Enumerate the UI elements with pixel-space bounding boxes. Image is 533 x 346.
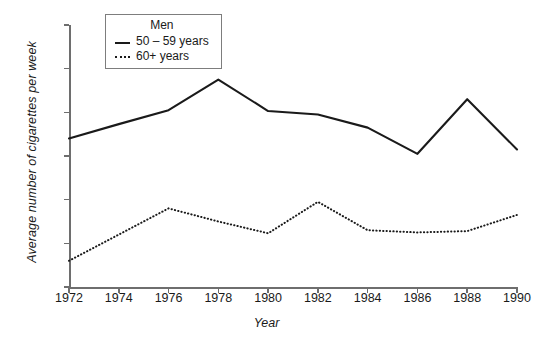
y-axis-title: Average number of cigarettes per week	[25, 27, 39, 277]
dotted-line-icon	[115, 51, 130, 63]
solid-line-icon	[115, 36, 130, 48]
legend-item-label: 50 – 59 years	[136, 34, 209, 49]
x-axis-title: Year	[0, 316, 533, 330]
x-tick-mark	[218, 288, 220, 293]
x-axis-line	[69, 287, 518, 289]
x-tick-mark	[118, 288, 120, 293]
line-chart: Average number of cigarettes per week Ye…	[0, 0, 533, 346]
legend: Men 50 – 59 years60+ years	[105, 14, 222, 69]
x-tick-label: 1990	[487, 291, 533, 305]
legend-item: 60+ years	[115, 49, 209, 64]
series-line-60-plus-years	[69, 202, 517, 261]
x-tick-mark	[168, 288, 170, 293]
legend-entries: 50 – 59 years60+ years	[115, 34, 209, 64]
x-tick-mark	[417, 288, 419, 293]
x-tick-mark	[367, 288, 369, 293]
x-tick-mark	[516, 288, 518, 293]
x-tick-mark	[68, 288, 70, 293]
series-line-50-59-years	[69, 80, 517, 154]
legend-item: 50 – 59 years	[115, 34, 209, 49]
legend-title: Men	[115, 18, 209, 34]
x-tick-mark	[267, 288, 269, 293]
legend-item-label: 60+ years	[136, 49, 189, 64]
x-tick-mark	[466, 288, 468, 293]
x-tick-mark	[317, 288, 319, 293]
